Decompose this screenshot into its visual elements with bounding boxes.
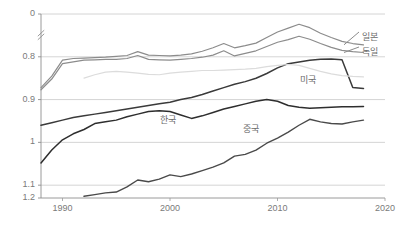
x-tick-label-2010: 2010 bbox=[258, 203, 298, 213]
x-tick-label-1990: 1990 bbox=[43, 203, 83, 213]
y-tick-label-0: 0 bbox=[2, 8, 35, 18]
y-tick-label-1: 1 bbox=[2, 136, 35, 146]
gridlines bbox=[41, 14, 385, 198]
x-tick-label-2020: 2020 bbox=[365, 203, 400, 213]
y-tick-label-0_8: 0.8 bbox=[2, 51, 35, 61]
series-lines bbox=[41, 24, 364, 196]
label-leader-lines bbox=[344, 32, 359, 53]
series-label-usa: 미국 bbox=[300, 73, 316, 86]
x-tick-label-2000: 2000 bbox=[150, 203, 190, 213]
legend-label-germany: 독일 bbox=[362, 45, 378, 58]
legend-label-japan: 일본 bbox=[362, 30, 378, 43]
y-tick-label-1_2: 1.2 bbox=[2, 192, 35, 202]
series-label-china: 중국 bbox=[243, 122, 259, 135]
y-tick-label-1_1: 1.1 bbox=[2, 179, 35, 189]
series-label-korea: 한국 bbox=[160, 113, 176, 126]
y-tick-label-0_9: 0.9 bbox=[2, 94, 35, 104]
